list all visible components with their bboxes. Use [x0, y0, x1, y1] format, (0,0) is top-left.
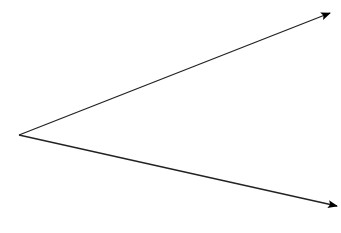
lower-ray-arrow: [19, 135, 337, 206]
angle-diagram: [0, 0, 341, 233]
upper-ray-arrow: [19, 13, 330, 135]
